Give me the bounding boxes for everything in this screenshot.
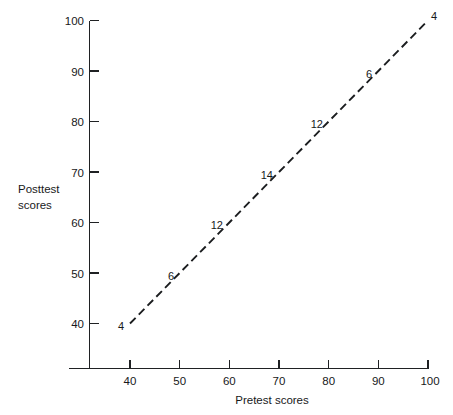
x-tick-label-40: 40	[124, 375, 137, 387]
y-axis-title-line2: scores	[18, 199, 52, 211]
point-label-70: 14	[261, 169, 273, 181]
x-tick-label-50: 50	[173, 375, 186, 387]
scatterplot-figure: 100 90 80 70 60 50 40 40 50 60 70 80 90 …	[0, 0, 453, 415]
x-tick-label-90: 90	[372, 375, 385, 387]
chart-canvas: 100 90 80 70 60 50 40 40 50 60 70 80 90 …	[0, 0, 453, 415]
y-tick-label-40: 40	[71, 318, 84, 330]
point-label-50: 6	[168, 270, 174, 282]
y-tick-label-80: 80	[71, 116, 84, 128]
x-tick-label-100: 100	[420, 375, 439, 387]
point-label-40: 4	[118, 320, 124, 332]
x-tick-label-70: 70	[273, 375, 286, 387]
y-tick-label-50: 50	[71, 268, 84, 280]
x-tick-label-60: 60	[223, 375, 236, 387]
point-label-90: 6	[366, 68, 372, 80]
data-series-line	[130, 21, 428, 324]
y-tick-label-70: 70	[71, 167, 84, 179]
y-tick-label-60: 60	[71, 217, 84, 229]
point-label-60: 12	[211, 219, 223, 231]
x-tick-label-80: 80	[322, 375, 335, 387]
y-tick-label-100: 100	[65, 15, 84, 27]
x-axis-title: Pretest scores	[235, 394, 309, 406]
point-label-80: 12	[311, 118, 323, 130]
y-axis-title-line1: Posttest	[18, 183, 60, 195]
y-tick-label-90: 90	[71, 66, 84, 78]
point-label-100: 4	[431, 10, 437, 22]
